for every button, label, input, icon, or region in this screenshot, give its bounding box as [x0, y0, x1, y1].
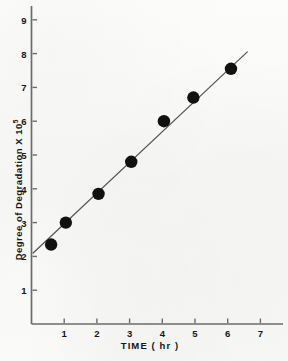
x-tick-label: 3	[127, 328, 132, 339]
data-point	[45, 238, 57, 250]
x-tick-label: 1	[62, 328, 67, 339]
data-point	[225, 63, 237, 75]
x-tick-label: 2	[94, 328, 99, 339]
data-point	[158, 115, 170, 127]
data-point	[187, 91, 199, 103]
data-point	[60, 216, 72, 228]
x-tick-label: 6	[225, 328, 230, 339]
figure-container: 123456789 1234567 TIME ( hr ) Degree of …	[0, 0, 288, 361]
y-axis-title-exponent: 5	[12, 120, 19, 124]
data-point	[125, 156, 137, 168]
y-tick-label: 9	[11, 14, 27, 25]
y-tick-label: 1	[11, 285, 27, 296]
data-point	[92, 188, 104, 200]
x-tick-label: 5	[192, 328, 197, 339]
plot-area	[0, 0, 288, 361]
x-tick-label: 4	[160, 328, 165, 339]
data-point-markers	[45, 63, 237, 251]
x-tick-label: 7	[258, 328, 263, 339]
x-axis-ticks	[64, 319, 260, 324]
x-axis-title: TIME ( hr )	[121, 340, 180, 351]
y-axis-title: Degree of Degradation X 105	[12, 120, 24, 261]
y-axis-title-text: Degree of Degradation X 10	[13, 123, 24, 260]
y-tick-label: 8	[11, 48, 27, 59]
y-tick-label: 7	[11, 82, 27, 93]
